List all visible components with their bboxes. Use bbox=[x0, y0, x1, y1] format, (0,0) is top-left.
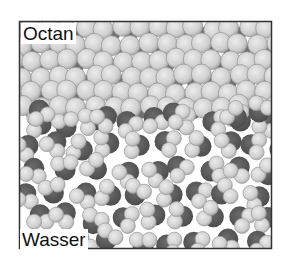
water-phase-label: Wasser bbox=[20, 229, 88, 250]
octane-phase-label: Octan bbox=[21, 23, 76, 44]
